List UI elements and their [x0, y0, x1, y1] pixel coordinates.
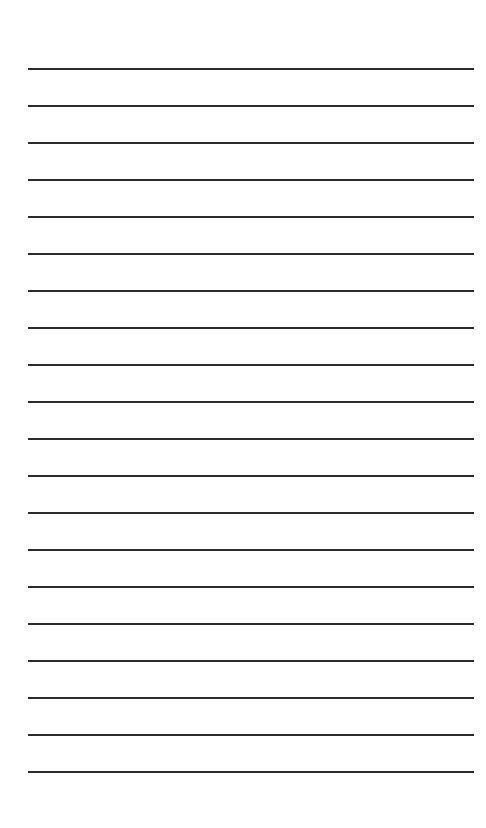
- ruled-line: [28, 697, 474, 699]
- ruled-line: [28, 216, 474, 218]
- ruled-line: [28, 586, 474, 588]
- ruled-paper-page: [0, 0, 486, 828]
- ruled-line: [28, 253, 474, 255]
- ruled-line: [28, 549, 474, 551]
- ruled-line: [28, 327, 474, 329]
- ruled-line: [28, 105, 474, 107]
- ruled-line: [28, 512, 474, 514]
- ruled-line: [28, 401, 474, 403]
- ruled-line: [28, 290, 474, 292]
- ruled-line: [28, 623, 474, 625]
- ruled-line: [28, 179, 474, 181]
- ruled-line: [28, 438, 474, 440]
- ruled-line: [28, 475, 474, 477]
- ruled-line: [28, 771, 474, 773]
- ruled-line: [28, 68, 474, 70]
- ruled-line: [28, 142, 474, 144]
- ruled-line: [28, 734, 474, 736]
- ruled-line: [28, 660, 474, 662]
- ruled-line: [28, 364, 474, 366]
